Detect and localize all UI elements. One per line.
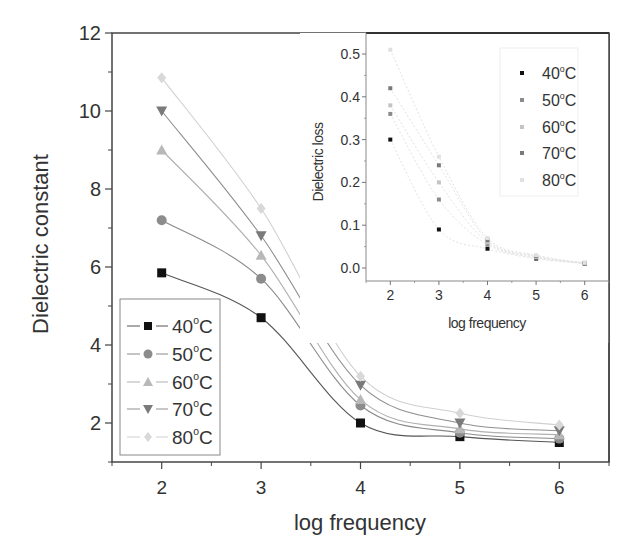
inset-legend-label: 70oC xyxy=(542,144,576,162)
inset-legend-label: 40oC xyxy=(542,64,576,82)
inset-point-marker-icon xyxy=(388,86,392,90)
y-tick-label: 6 xyxy=(90,256,101,278)
inset-legend-marker-icon xyxy=(520,125,524,129)
inset-point-marker-icon xyxy=(583,261,587,265)
inset-x-axis-label: log frequency xyxy=(448,315,526,331)
inset-point-marker-icon xyxy=(437,163,441,167)
main-legend: 40oC50oC60oC70oC80oC xyxy=(120,299,220,455)
inset-point-marker-icon xyxy=(388,48,392,52)
inset-y-tick-label: 0.1 xyxy=(341,217,361,233)
inset-x-tick-label: 4 xyxy=(484,287,492,303)
inset-y-tick-label: 0.2 xyxy=(341,174,361,190)
inset-point-marker-icon xyxy=(534,253,538,257)
legend-label: 40oC xyxy=(172,315,213,337)
circle-marker-icon xyxy=(256,274,266,284)
y-tick-label: 2 xyxy=(90,412,101,434)
legend-label: 50oC xyxy=(172,343,213,365)
main-x-axis-label: log frequency xyxy=(294,510,426,535)
legend-square-icon xyxy=(144,322,152,330)
main-y-axis-label: Dielectric constant xyxy=(28,154,53,334)
inset-legend-marker-icon xyxy=(520,151,524,155)
inset-point-marker-icon xyxy=(437,155,441,159)
inset-point-marker-icon xyxy=(486,247,490,251)
x-tick-label: 2 xyxy=(156,477,167,498)
inset-legend-label: 80oC xyxy=(542,171,576,189)
inset-y-tick-label: 0.5 xyxy=(341,46,361,62)
inset-legend-label: 60oC xyxy=(542,118,576,136)
inset-legend-marker-icon xyxy=(520,178,524,182)
inset-x-tick-label: 5 xyxy=(532,287,540,303)
dielectric-chart: 2345624681012 log frequency Dielectric c… xyxy=(0,0,636,560)
inset-point-marker-icon xyxy=(388,112,392,116)
x-tick-label: 6 xyxy=(554,477,565,498)
square-marker-icon xyxy=(257,313,266,322)
inset-x-tick-label: 2 xyxy=(386,287,394,303)
square-marker-icon xyxy=(356,419,365,428)
inset-y-axis-label: Dielectric loss xyxy=(310,122,326,201)
y-tick-label: 8 xyxy=(90,178,101,200)
inset-y-tick-label: 0.0 xyxy=(341,260,361,276)
legend-label: 70oC xyxy=(172,398,213,420)
inset-legend-marker-icon xyxy=(520,71,524,75)
x-tick-label: 4 xyxy=(355,477,366,498)
legend-label: 60oC xyxy=(172,371,213,393)
inset-x-tick-label: 6 xyxy=(581,287,589,303)
legend-circle-icon xyxy=(144,350,153,359)
y-tick-label: 10 xyxy=(79,100,101,122)
legend-label: 80oC xyxy=(172,426,213,448)
x-tick-label: 5 xyxy=(455,477,466,498)
inset-point-marker-icon xyxy=(388,103,392,107)
y-tick-label: 12 xyxy=(79,22,101,44)
inset-legend-marker-icon xyxy=(520,98,524,102)
circle-marker-icon xyxy=(157,215,167,225)
inset-y-tick-label: 0.3 xyxy=(341,132,361,148)
x-tick-label: 3 xyxy=(256,477,267,498)
square-marker-icon xyxy=(157,268,166,277)
inset-point-marker-icon xyxy=(437,227,441,231)
inset-y-tick-label: 0.4 xyxy=(341,89,361,105)
y-tick-label: 4 xyxy=(90,334,101,356)
inset-legend-label: 50oC xyxy=(542,91,576,109)
inset-point-marker-icon xyxy=(486,236,490,240)
inset-x-tick-label: 3 xyxy=(435,287,443,303)
inset-point-marker-icon xyxy=(388,138,392,142)
inset-point-marker-icon xyxy=(437,180,441,184)
inset-point-marker-icon xyxy=(437,198,441,202)
